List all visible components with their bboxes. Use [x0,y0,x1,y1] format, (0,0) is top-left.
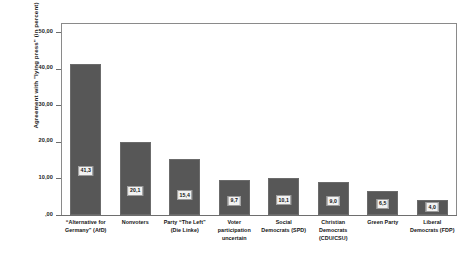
x-axis-category-line: Democrats [309,227,359,235]
y-axis-tick-label: 40,00 [39,64,54,70]
x-axis-category-line: Social [259,219,309,227]
x-axis-category-label: Nonvoters [111,219,161,227]
bar-group[interactable]: 10,1 [268,23,299,215]
bar-group[interactable]: 9,7 [219,23,250,215]
x-axis-line [61,215,457,216]
bar[interactable] [169,159,200,215]
bar-value-label: 10,1 [276,195,292,205]
y-axis-tick-label: 50,00 [39,28,54,34]
bar-group[interactable]: 4,0 [417,23,448,215]
x-axis-category-label: Green Party [358,219,408,227]
bar-group[interactable]: 41,3 [70,23,101,215]
bar-group[interactable]: 9,0 [318,23,349,215]
y-axis-tick-label: 20,00 [39,137,54,143]
y-axis-tick-label: 30,00 [39,101,54,107]
x-axis-category-line: Germany” (AfD) [61,227,111,235]
x-axis-category-line: (Die Linke) [160,227,210,235]
x-axis-category-line: (CDU/CSU) [309,235,359,243]
bar-group[interactable]: 20,1 [120,23,151,215]
x-axis-category-line: Liberal [408,219,458,227]
bar-chart-figure: Agreement with "lying press" (in percent… [0,0,464,261]
bar-value-label: 9,0 [327,196,340,206]
bar-group[interactable]: 6,5 [367,23,398,215]
x-axis-category-line: “Alternative for [61,219,111,227]
x-axis-category-label: LiberalDemocrats (FDP) [408,219,458,235]
bar-value-label: 15,4 [177,190,193,200]
bar[interactable] [120,142,151,216]
x-axis-category-line: uncertain [210,235,260,243]
bar-value-label: 9,7 [228,196,241,206]
x-axis-category-line: Democrats (FDP) [408,227,458,235]
x-axis-category-line: Democrats (SPD) [259,227,309,235]
x-axis-category-label: Voterparticipationuncertain [210,219,260,242]
bar-value-label: 20,1 [127,186,143,196]
bar[interactable] [70,64,101,215]
bars-layer: 41,320,115,49,710,19,06,54,0 [61,23,457,215]
y-axis-tick-label: 10,00 [39,174,54,180]
x-axis-category-line: Christian [309,219,359,227]
x-axis-category-label: SocialDemocrats (SPD) [259,219,309,235]
x-axis-category-label: Party “The Left”(Die Linke) [160,219,210,235]
bar-value-label: 4,0 [426,202,439,212]
x-axis-labels: “Alternative forGermany” (AfD)NonvotersP… [61,219,457,259]
bar-value-label: 6,5 [376,199,389,209]
y-axis-tick-label: ,00 [45,211,53,217]
y-axis-title: Agreement with "lying press" (in percent… [32,0,39,161]
x-axis-category-label: ChristianDemocrats(CDU/CSU) [309,219,359,242]
x-axis-category-line: Nonvoters [111,219,161,227]
x-axis-category-line: Party “The Left” [160,219,210,227]
x-axis-category-line: participation [210,227,260,235]
x-axis-category-label: “Alternative forGermany” (AfD) [61,219,111,235]
x-axis-category-line: Green Party [358,219,408,227]
bar-group[interactable]: 15,4 [169,23,200,215]
bar-value-label: 41,3 [78,166,94,176]
x-axis-category-line: Voter [210,219,260,227]
